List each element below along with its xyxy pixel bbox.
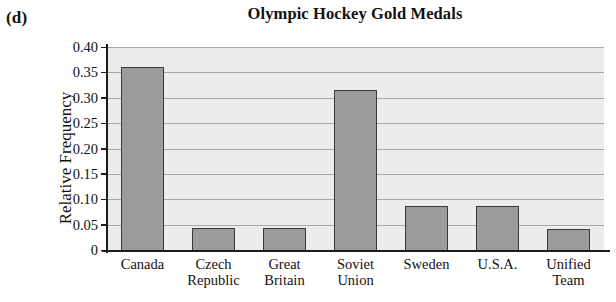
bar: [405, 206, 448, 251]
x-category-line: Great: [245, 256, 324, 272]
panel-letter-label: (d): [6, 8, 27, 28]
y-tick-label: 0.30: [52, 91, 98, 106]
y-tick-label: 0.05: [52, 218, 98, 233]
x-category-line: Czech: [174, 256, 253, 272]
x-axis-line: [102, 250, 610, 252]
x-category-line: Union: [316, 272, 395, 288]
y-tick-mark: [101, 72, 107, 74]
y-tick-label: 0.20: [52, 142, 98, 157]
x-category-label: SovietUnion: [316, 256, 395, 288]
y-tick-label: 0.25: [52, 116, 98, 131]
bar: [121, 67, 164, 251]
x-category-line: Team: [529, 272, 608, 288]
bar: [334, 90, 377, 251]
x-category-line: Sweden: [387, 256, 466, 272]
y-tick-label: 0: [52, 243, 98, 258]
x-category-line: Soviet: [316, 256, 395, 272]
bar: [263, 228, 306, 251]
x-category-line: Unified: [529, 256, 608, 272]
y-axis-title: Relative Frequency: [56, 48, 76, 268]
bar: [192, 228, 235, 251]
y-tick-label: 0.15: [52, 167, 98, 182]
y-tick-mark: [101, 199, 107, 201]
x-category-label: UnifiedTeam: [529, 256, 608, 288]
x-category-label: GreatBritain: [245, 256, 324, 288]
figure-panel: (d) Olympic Hockey Gold Medals Relative …: [0, 0, 616, 302]
y-tick-mark: [101, 97, 107, 99]
y-tick-mark: [101, 224, 107, 226]
gridline: [107, 72, 604, 73]
plot-area: [107, 47, 604, 250]
x-category-label: CzechRepublic: [174, 256, 253, 288]
x-category-line: Republic: [174, 272, 253, 288]
x-category-line: U.S.A.: [458, 256, 537, 272]
y-tick-mark: [101, 148, 107, 150]
x-category-line: Britain: [245, 272, 324, 288]
y-tick-mark: [101, 47, 107, 49]
y-tick-mark: [101, 123, 107, 125]
y-tick-label: 0.40: [52, 40, 98, 55]
bar: [547, 229, 590, 251]
y-tick-label: 0.35: [52, 65, 98, 80]
x-category-label: Canada: [103, 256, 182, 272]
x-category-label: U.S.A.: [458, 256, 537, 272]
x-category-label: Sweden: [387, 256, 466, 272]
bar: [476, 206, 519, 251]
y-tick-mark: [101, 250, 107, 252]
gridline: [107, 47, 604, 48]
y-tick-mark: [101, 173, 107, 175]
y-tick-label: 0.10: [52, 192, 98, 207]
chart-title: Olympic Hockey Gold Medals: [100, 4, 610, 24]
x-category-line: Canada: [103, 256, 182, 272]
